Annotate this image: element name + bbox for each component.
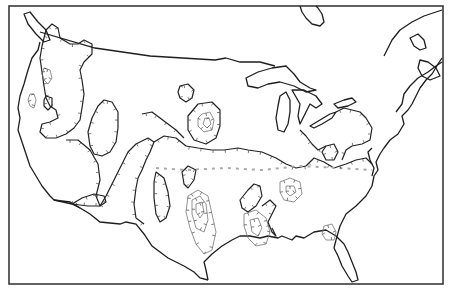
- hachure-tick: [258, 225, 261, 226]
- hachure-tick: [209, 212, 212, 213]
- hachure-tick: [128, 152, 130, 154]
- hachure-tick: [333, 231, 336, 232]
- us-canada-border: [40, 32, 226, 60]
- hachure-tick: [113, 109, 116, 111]
- hachure-tick: [214, 135, 217, 136]
- hachure-tick: [340, 110, 341, 113]
- hachure-tick: [88, 150, 91, 151]
- hachure-tick: [196, 138, 197, 141]
- hachure-tick: [323, 153, 326, 154]
- hachure-tick: [211, 119, 214, 120]
- hachure-tick: [263, 242, 266, 243]
- contour-nevada-oval: [88, 100, 118, 156]
- hachure-tick: [265, 204, 267, 206]
- hachure-tick: [191, 194, 193, 197]
- contour-plains-inner2: [203, 118, 211, 128]
- contour-dakota-small: [178, 84, 194, 102]
- contour-northeast: [336, 108, 372, 160]
- hachure-tick: [264, 220, 267, 221]
- hachure-tick: [167, 206, 170, 207]
- hachure-tick: [91, 122, 94, 123]
- contour-mississippi-loop: [262, 200, 276, 236]
- contour-texas-mid: [192, 196, 208, 232]
- hachure-tick: [242, 197, 244, 199]
- hachure-tick: [180, 86, 183, 87]
- hachure-tick: [32, 105, 35, 106]
- us-canada-border-east: [226, 58, 275, 66]
- hachure-tick: [86, 197, 87, 200]
- contour-tennessee-outer: [280, 178, 302, 202]
- hachure-tick: [49, 78, 51, 80]
- lake-michigan: [276, 92, 290, 132]
- hachure-tick: [141, 223, 143, 225]
- chesapeake-bay: [368, 148, 374, 176]
- hachure-tick: [112, 184, 115, 185]
- hachure-tick: [185, 169, 187, 171]
- hachure-tick: [200, 192, 202, 195]
- hachure-tick: [28, 100, 31, 101]
- hachure-tick: [211, 224, 214, 225]
- hachure-tick: [46, 135, 48, 137]
- hachure-tick: [207, 126, 209, 128]
- hachure-tick: [177, 141, 179, 143]
- hachure-tick: [308, 142, 310, 144]
- hachure-tick: [107, 150, 108, 153]
- contour-central-band: [154, 136, 306, 168]
- hachure-tick: [198, 213, 200, 215]
- contour-central-upper: [142, 112, 184, 138]
- hachure-tick: [102, 102, 104, 104]
- hachure-tick: [269, 213, 272, 214]
- hachure-tick: [363, 140, 364, 143]
- hachure-tick: [60, 39, 62, 42]
- hachure-tick: [252, 205, 254, 207]
- us-mexico-border: [54, 200, 208, 280]
- us-contour-map: [0, 0, 452, 290]
- hachure-tick: [212, 235, 215, 236]
- hachure-tick: [47, 69, 48, 72]
- hachure-tick: [196, 198, 197, 201]
- hachure-tick: [79, 65, 82, 66]
- hachure-tick: [192, 232, 195, 233]
- hachure-tick: [255, 243, 257, 245]
- lake-superior: [246, 66, 316, 92]
- hachure-tick: [95, 111, 98, 112]
- hachure-tick: [145, 155, 148, 156]
- hachure-tick: [50, 122, 51, 125]
- hachure-tick: [210, 247, 213, 248]
- contour-texas-west: [154, 172, 170, 222]
- hachure-tick: [309, 163, 311, 165]
- hachure-tick: [193, 169, 194, 172]
- map-frame: [9, 6, 443, 284]
- hachure-tick: [211, 127, 212, 130]
- hachure-tick: [335, 151, 338, 152]
- contour-plains-center: [188, 102, 220, 144]
- hachure-tick: [206, 113, 207, 116]
- hachure-tick: [360, 114, 362, 116]
- hachure-tick: [155, 115, 157, 117]
- hachure-tick: [200, 203, 201, 206]
- hachure-tick: [123, 163, 126, 164]
- hachure-tick: [158, 216, 161, 217]
- hachure-tick: [319, 150, 320, 153]
- hachure-tick: [248, 213, 249, 216]
- hachure-tick: [294, 180, 295, 183]
- hachure-tick: [322, 233, 324, 235]
- lake-ontario: [334, 98, 356, 108]
- hachure-tick: [44, 79, 47, 80]
- contour-plains-inner1: [198, 112, 214, 132]
- hachure-tick: [188, 97, 190, 99]
- hachure-tick: [367, 123, 370, 125]
- hachure-tick: [49, 27, 51, 29]
- hachure-tick: [201, 211, 204, 212]
- hachure-tick: [193, 110, 195, 112]
- hachure-tick: [250, 188, 252, 190]
- hachure-tick: [66, 130, 68, 132]
- hachure-tick: [194, 220, 197, 221]
- contour-louisiana-outer: [244, 210, 270, 246]
- hachure-tick: [295, 196, 297, 198]
- hachure-tick: [254, 219, 255, 222]
- hachure-tick: [87, 55, 89, 57]
- hachure-tick: [163, 184, 166, 185]
- hachure-tick: [201, 127, 203, 129]
- hachure-tick: [191, 178, 193, 180]
